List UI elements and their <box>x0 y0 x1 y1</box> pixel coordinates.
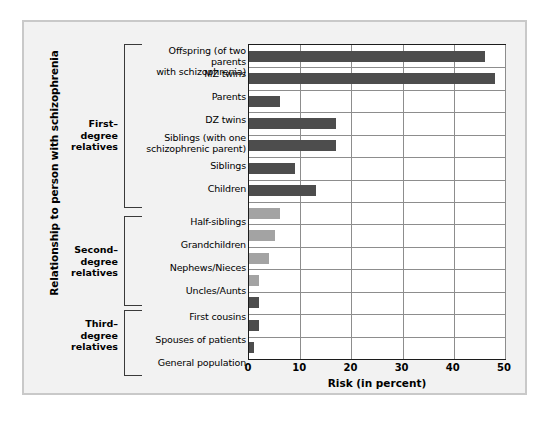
category-label-grandchildren: Grandchildren <box>142 240 246 251</box>
gridline-x-50 <box>505 45 506 359</box>
x-tick-label-0: 0 <box>233 362 263 373</box>
bar <box>249 96 280 107</box>
x-tick-label-40: 40 <box>438 362 468 373</box>
bar <box>249 320 259 331</box>
bar <box>249 253 269 264</box>
group-label-third-line2: degree <box>60 330 118 342</box>
gridline-y-13 <box>249 337 505 338</box>
x-tick-label-20: 20 <box>335 362 365 373</box>
category-label-spouses: Spouses of patients <box>142 335 246 346</box>
bar <box>249 208 280 219</box>
group-label-third-degree: Third– degree relatives <box>60 318 118 353</box>
bar <box>249 230 275 241</box>
group-label-second-degree: Second– degree relatives <box>60 244 118 279</box>
bar <box>249 73 495 84</box>
x-tick-label-50: 50 <box>489 362 519 373</box>
gridline-y-7 <box>249 202 505 203</box>
gridline-y-9 <box>249 247 505 248</box>
group-label-second-line1: Second– <box>60 244 118 256</box>
group-label-first-line1: First– <box>60 118 118 130</box>
category-label-siblings-one-parent-line2: schizophrenic parent) <box>142 144 246 155</box>
gridline-y-8 <box>249 224 505 225</box>
category-label-uncles-aunts: Uncles/Aunts <box>142 286 246 297</box>
gridline-y-4 <box>249 135 505 136</box>
bar <box>249 51 485 62</box>
category-label-mz-twins: MZ twins <box>142 69 246 80</box>
category-label-general-population: General population <box>142 358 246 369</box>
bar <box>249 163 295 174</box>
group-label-second-line3: relatives <box>60 267 118 279</box>
gridline-y-6 <box>249 180 505 181</box>
group-bracket-third-degree <box>124 310 142 376</box>
category-label-parents: Parents <box>142 92 246 103</box>
gridline-y-2 <box>249 90 505 91</box>
group-label-first-degree: First– degree relatives <box>60 118 118 153</box>
gridline-y-10 <box>249 269 505 270</box>
gridlines <box>249 45 505 359</box>
category-label-dz-twins: DZ twins <box>142 115 246 126</box>
category-label-offspring-line1: Offspring (of two parents <box>142 46 246 67</box>
gridline-y-12 <box>249 314 505 315</box>
category-label-nephews-nieces: Nephews/Nieces <box>142 263 246 274</box>
bar <box>249 342 254 353</box>
category-label-first-cousins: First cousins <box>142 312 246 323</box>
bar <box>249 297 259 308</box>
group-label-first-line3: relatives <box>60 141 118 153</box>
gridline-y-1 <box>249 67 505 68</box>
group-label-third-line1: Third– <box>60 318 118 330</box>
bar <box>249 185 316 196</box>
category-label-siblings: Siblings <box>142 161 246 172</box>
group-bracket-second-degree <box>124 216 142 306</box>
bar <box>249 140 336 151</box>
x-tick-label-10: 10 <box>284 362 314 373</box>
x-tick-label-30: 30 <box>387 362 417 373</box>
bar <box>249 118 336 129</box>
category-axis-labels: Offspring (of two parents with schizophr… <box>142 44 246 360</box>
bar <box>249 275 259 286</box>
x-axis: 01020304050 Risk (in percent) <box>248 360 506 394</box>
category-label-siblings-one-parent: Siblings (with one schizophrenic parent) <box>142 133 246 154</box>
gridline-y-5 <box>249 157 505 158</box>
category-label-children: Children <box>142 184 246 195</box>
group-label-first-line2: degree <box>60 130 118 142</box>
gridline-y-11 <box>249 292 505 293</box>
x-axis-title: Risk (in percent) <box>248 377 506 389</box>
category-label-siblings-one-parent-line1: Siblings (with one <box>142 133 246 144</box>
category-label-half-siblings: Half-siblings <box>142 217 246 228</box>
plot-area <box>248 44 506 360</box>
group-label-third-line3: relatives <box>60 341 118 353</box>
group-label-second-line2: degree <box>60 256 118 268</box>
chart-figure: Relationship to person with schizophreni… <box>22 20 527 395</box>
group-bracket-first-degree <box>124 44 142 208</box>
gridline-y-3 <box>249 112 505 113</box>
y-axis-title: Relationship to person with schizophreni… <box>48 48 60 298</box>
